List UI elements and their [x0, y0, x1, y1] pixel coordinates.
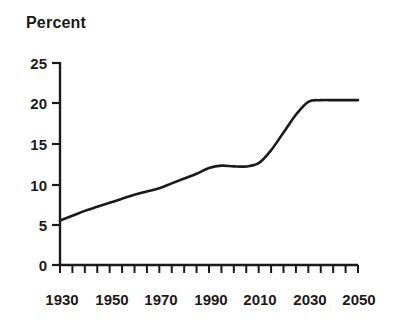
y-tick-label-20: 20 [30, 95, 47, 112]
data-series-line [60, 100, 358, 221]
x-tick-label-1970: 1970 [144, 291, 177, 308]
line-chart-plot: 0 5 10 15 20 25 1930 1950 1970 1990 2010… [0, 0, 394, 326]
x-tick-label-2030: 2030 [293, 291, 326, 308]
x-tick-label-2050: 2050 [342, 291, 375, 308]
x-tick-label-1950: 1950 [95, 291, 128, 308]
y-tick-label-5: 5 [39, 217, 47, 234]
x-tick-label-2010: 2010 [243, 291, 276, 308]
x-axis-tick-labels: 1930 1950 1970 1990 2010 2030 2050 [45, 291, 375, 308]
x-tick-label-1990: 1990 [194, 291, 227, 308]
y-tick-label-15: 15 [30, 136, 47, 153]
y-tick-label-0: 0 [39, 257, 47, 274]
chart-figure: Percent 0 5 10 15 20 25 1930 1 [0, 0, 394, 326]
y-axis-tick-labels: 0 5 10 15 20 25 [30, 55, 47, 274]
x-tick-label-1930: 1930 [45, 291, 78, 308]
y-tick-label-10: 10 [30, 177, 47, 194]
y-tick-label-25: 25 [30, 55, 47, 72]
x-axis-minor-ticks [60, 265, 358, 273]
